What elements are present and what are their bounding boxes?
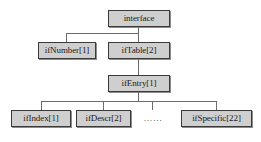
connector-to-iftable <box>138 33 139 42</box>
diagram-canvas: interface ifNumber[1] ifTable[2] ifEntry… <box>0 0 261 142</box>
node-ifentry[interactable]: ifEntry[1] <box>108 75 170 92</box>
node-iftable-label: ifTable[2] <box>122 46 157 55</box>
connector-to-ifspecific <box>216 101 217 110</box>
ellipsis-label: …… <box>143 114 162 123</box>
connector-to-ifindex <box>41 101 42 110</box>
node-ifspecific[interactable]: ifSpecific[22] <box>181 110 252 127</box>
node-ifnumber[interactable]: ifNumber[1] <box>38 42 96 59</box>
connector-iftable-ifentry <box>138 59 139 75</box>
connector-level1-bus <box>66 33 139 34</box>
node-interface[interactable]: interface <box>108 10 170 27</box>
ellipsis-more-nodes: …… <box>136 110 170 127</box>
connector-to-ellipsis <box>152 101 153 110</box>
node-ifdescr-label: ifDescr[2] <box>86 114 122 123</box>
connector-level4-bus <box>41 101 217 102</box>
node-ifindex-label: ifIndex[1] <box>23 114 58 123</box>
connector-ifentry-stem <box>138 92 139 101</box>
connector-to-ifnumber <box>66 33 67 42</box>
node-ifindex[interactable]: ifIndex[1] <box>11 110 71 127</box>
node-ifdescr[interactable]: ifDescr[2] <box>76 110 131 127</box>
node-ifnumber-label: ifNumber[1] <box>45 46 89 55</box>
node-ifentry-label: ifEntry[1] <box>122 79 157 88</box>
node-iftable[interactable]: ifTable[2] <box>108 42 170 59</box>
node-interface-label: interface <box>124 14 155 23</box>
node-ifspecific-label: ifSpecific[22] <box>192 114 241 123</box>
connector-to-ifdescr <box>103 101 104 110</box>
